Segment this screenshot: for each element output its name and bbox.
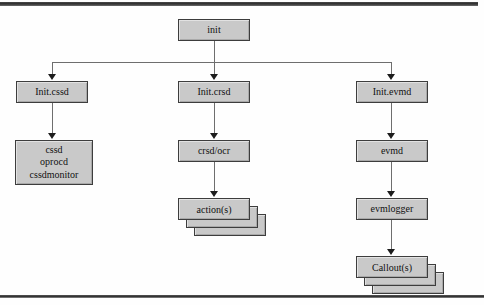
- node-crsd-ocr: crsd/ocr: [178, 140, 250, 162]
- node-callouts-stack: Callout(s): [356, 256, 446, 294]
- node-cssd-group-line-1: cssd: [45, 144, 62, 157]
- node-init-cssd-label: Init.cssd: [35, 86, 69, 98]
- connector-init-evmd-to-evmd: [391, 103, 392, 134]
- arrowhead-callouts: [387, 249, 395, 255]
- node-callouts-label: Callout(s): [372, 262, 412, 273]
- node-actions-label: action(s): [197, 204, 232, 215]
- arrowhead-init-cssd: [48, 74, 56, 80]
- node-init-crsd: Init.crsd: [178, 81, 250, 103]
- connector-init-crsd-to-crsd-ocr: [214, 103, 215, 134]
- top-rule: [0, 2, 478, 6]
- node-cssd-group-line-3: cssdmonitor: [30, 169, 79, 182]
- connector-evmd-to-evmlogger: [391, 162, 392, 192]
- node-init-cssd: Init.cssd: [16, 81, 88, 103]
- node-evmlogger-label: evmlogger: [371, 203, 414, 215]
- arrowhead-cssd-group: [48, 133, 56, 139]
- connector-init-cssd-to-cssd-group: [52, 103, 53, 134]
- connector-evmlogger-to-callouts: [391, 220, 392, 250]
- connector-crsd-ocr-to-actions: [214, 162, 215, 192]
- node-callouts: Callout(s): [356, 256, 428, 278]
- node-cssd-group-line-2: oprocd: [40, 156, 68, 169]
- node-init-label: init: [207, 24, 220, 36]
- node-actions-stack: action(s): [178, 198, 268, 236]
- node-evmd-label: evmd: [381, 145, 403, 157]
- arrowhead-evmlogger: [387, 191, 395, 197]
- node-init-evmd: Init.evmd: [356, 81, 428, 103]
- arrowhead-evmd: [387, 133, 395, 139]
- node-init-crsd-label: Init.crsd: [197, 86, 230, 98]
- arrowhead-actions: [210, 191, 218, 197]
- node-init-evmd-label: Init.evmd: [373, 86, 412, 98]
- node-init: init: [178, 19, 250, 41]
- node-actions: action(s): [178, 198, 250, 220]
- arrowhead-init-evmd: [387, 74, 395, 80]
- connector-bus: [52, 62, 392, 63]
- node-cssd-group: cssd oprocd cssdmonitor: [15, 140, 93, 185]
- node-evmd: evmd: [356, 140, 428, 162]
- arrowhead-init-crsd: [210, 74, 218, 80]
- connector-init-to-bus: [214, 41, 215, 62]
- node-crsd-ocr-label: crsd/ocr: [198, 145, 230, 157]
- bottom-rule: [0, 295, 484, 298]
- node-evmlogger: evmlogger: [356, 198, 428, 220]
- arrowhead-crsd-ocr: [210, 133, 218, 139]
- diagram-canvas: init Init.cssd cssd oprocd cssdmonitor I…: [0, 0, 484, 305]
